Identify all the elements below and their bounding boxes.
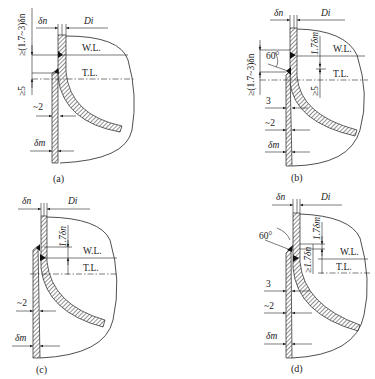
shell-thickness-label: δn [274,8,283,18]
offset-label: ~2 [265,118,275,128]
straight-flange-label: 1.7δm [310,32,320,55]
min-thickness-label: δm [268,140,279,150]
panel-a: ≥(1.7~3)δn ≥5 δn Di W.L. T.L. ~2 δm (a) [17,8,135,185]
offset-label: ~2 [264,301,274,311]
tangent-line-label: T.L. [83,263,99,273]
overlap-label: ≥(1.7~3)δn [17,13,28,56]
tangent-line-label: T.L. [82,68,98,78]
caption-d: (d) [291,363,303,375]
straight-flange-label: 1.7δn [58,226,68,247]
straight-flange-label: 1.7δm [312,217,322,240]
min-thickness-label: δm [15,333,26,343]
shell-thickness-label: δn [38,16,47,26]
overlap-label: ≥(1.7~3)δn [246,53,257,96]
weld-joint-diagram: ≥(1.7~3)δn ≥5 δn Di W.L. T.L. ~2 δm (a) … [0,0,375,379]
bevel-angle-label: 60° [266,51,280,61]
tangent-line-label: T.L. [333,69,349,79]
shell-plate [286,248,292,358]
shell-plate [52,70,58,163]
tangent-line-label: T.L. [336,262,352,272]
panel-d: 60° 1.7δm ≥1.7δn δn Di W.L. T.L. 3 ~2 δm [259,192,370,375]
weld-line-label: W.L. [83,246,102,256]
panel-b: 60° ≥(1.7~3)δn 1.7δm ≥5 δn Di W.L. T.L. … [246,8,368,184]
offset-label: ~2 [17,298,27,308]
caption-c: (c) [36,364,47,376]
min-thickness-label: δm [34,138,45,148]
shell-thickness-label: δn [276,192,285,202]
root-gap-label: 3 [266,279,271,289]
weld-line-label: W.L. [333,44,352,54]
inner-diameter-label: Di [320,8,331,18]
panel-c: 1.7δn δn Di W.L. T.L. ~2 δm (c) [12,196,118,376]
min-gap-label: ≥5 [310,86,320,96]
shell-plate [33,246,40,358]
weld-line-label: W.L. [340,247,359,257]
offset-label: ~2 [33,102,43,112]
weld-line-label: W.L. [82,43,101,53]
inner-diameter-label: Di [67,196,78,206]
shell-thickness-label: δn [22,196,31,206]
min-overlap-label: ≥1.7δn [303,246,313,273]
root-gap-label: 3 [266,96,271,106]
inner-diameter-label: Di [320,192,331,202]
caption-b: (b) [291,172,303,184]
min-thickness-label: δm [266,331,277,341]
bevel-angle-label: 60° [259,231,273,241]
min-gap-label: ≥5 [17,86,27,96]
caption-a: (a) [53,173,64,185]
inner-diameter-label: Di [83,16,94,26]
